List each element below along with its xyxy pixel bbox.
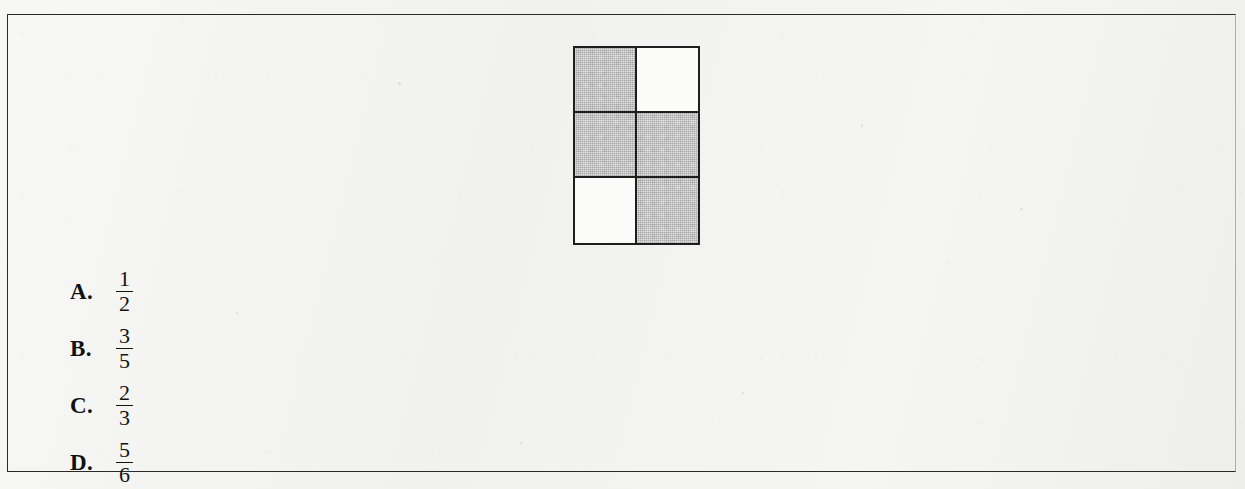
- option-letter-b: B.: [70, 336, 116, 362]
- option-letter-d: D.: [70, 450, 116, 476]
- grid-cell-r1c2: [637, 48, 699, 113]
- shaded-fraction-grid: [573, 46, 700, 245]
- answer-option-d[interactable]: D. 5 6: [70, 434, 250, 489]
- question-frame: A. 1 2 B. 3 5 C. 2 3 D.: [7, 14, 1236, 472]
- fraction-numerator: 5: [116, 439, 133, 462]
- fraction-numerator: 1: [116, 268, 133, 291]
- option-fraction-a: 1 2: [116, 268, 133, 316]
- option-fraction-c: 2 3: [116, 382, 133, 430]
- grid-cell-r2c2: [637, 113, 699, 178]
- grid-cell-r3c2: [637, 178, 699, 243]
- answer-option-b[interactable]: B. 3 5: [70, 320, 250, 377]
- fraction-numerator: 2: [116, 382, 133, 405]
- option-fraction-b: 3 5: [116, 325, 133, 373]
- option-fraction-d: 5 6: [116, 439, 133, 487]
- answer-option-a[interactable]: A. 1 2: [70, 263, 250, 320]
- answer-option-c[interactable]: C. 2 3: [70, 377, 250, 434]
- fraction-denominator: 3: [116, 406, 133, 429]
- fraction-denominator: 5: [116, 349, 133, 372]
- option-letter-c: C.: [70, 393, 116, 419]
- grid-cell-r3c1: [575, 178, 637, 243]
- answer-options-list: A. 1 2 B. 3 5 C. 2 3 D.: [70, 263, 250, 489]
- fraction-numerator: 3: [116, 325, 133, 348]
- option-letter-a: A.: [70, 279, 116, 305]
- fraction-denominator: 2: [116, 292, 133, 315]
- grid-cell-r2c1: [575, 113, 637, 178]
- grid-cell-r1c1: [575, 48, 637, 113]
- fraction-denominator: 6: [116, 463, 133, 486]
